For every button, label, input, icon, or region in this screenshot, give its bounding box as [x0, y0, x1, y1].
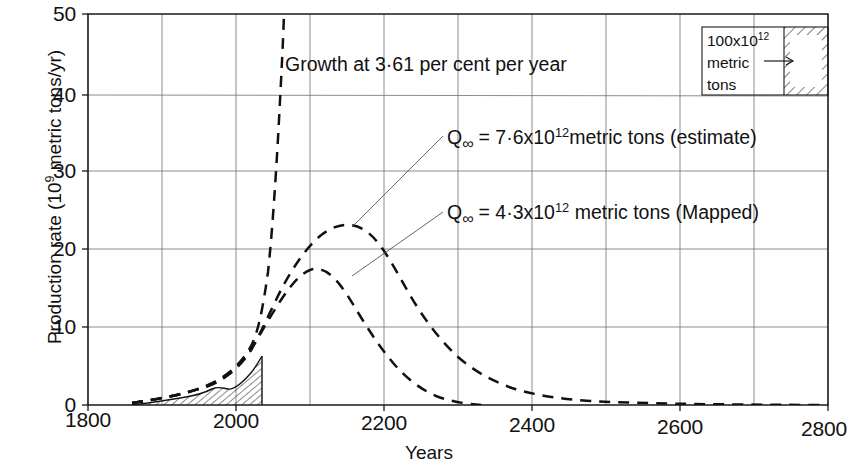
- annotation-leader-lines: [352, 136, 443, 276]
- annotation-growth-rate: Growth at 3·61 per cent per year: [285, 53, 567, 76]
- y-axis-title-suffix: metric tons/yr): [44, 50, 65, 176]
- chart-figure: 50 40 30 20 10 0 1800 2000 2200 2400 260…: [0, 0, 858, 473]
- annotation-infinity-subscript: ∞: [462, 210, 473, 227]
- x-tick-label-2200: 2200: [348, 411, 420, 435]
- annotation-units: metric tons (Mapped): [569, 201, 759, 223]
- y-axis-title: Production rate (109 metric tons/yr): [44, 32, 66, 362]
- curve-q-mapped: [132, 269, 482, 405]
- annotation-q-symbol: Q: [447, 201, 462, 223]
- x-tick-label-2000: 2000: [200, 409, 272, 433]
- annotation-q-symbol: Q: [447, 126, 462, 148]
- annotation-infinity-subscript: ∞: [462, 135, 473, 152]
- legend-label-quantity: 100x1012: [707, 32, 769, 49]
- annotation-q-value: = 4·3x10: [473, 201, 555, 223]
- y-tick-label-50: 50: [32, 2, 76, 26]
- x-tick-label-2800: 2800: [790, 417, 858, 441]
- legend-quantity-prefix: 100x10: [707, 32, 758, 49]
- annotation-q-value: = 7·6x10: [473, 126, 555, 148]
- legend-label-unit-line1: metric: [707, 54, 749, 71]
- annotation-q-mapped: Q∞ = 4·3x1012 metric tons (Mapped): [447, 201, 759, 224]
- legend-quantity-exponent: 12: [758, 31, 769, 42]
- legend-arrow-icon: [764, 57, 793, 65]
- x-axis-ticks: [88, 405, 828, 411]
- x-axis-title: Years: [0, 442, 858, 464]
- annotation-units: metric tons (estimate): [569, 126, 756, 148]
- legend-label-unit-line2: tons: [707, 76, 736, 93]
- annotation-q-estimate: Q∞ = 7·6x1012metric tons (estimate): [447, 126, 757, 149]
- annotation-exponent: 12: [555, 125, 569, 140]
- y-axis-ticks: [82, 14, 88, 405]
- y-axis-title-prefix: Production rate (10: [44, 183, 65, 345]
- x-tick-label-2600: 2600: [644, 415, 716, 439]
- shaded-region-historical: [132, 356, 262, 405]
- x-tick-label-1800: 1800: [52, 408, 124, 432]
- y-axis-title-exponent: 9: [43, 176, 57, 183]
- x-tick-label-2400: 2400: [496, 413, 568, 437]
- annotation-exponent: 12: [555, 200, 569, 215]
- curve-exponential-growth: [132, 14, 284, 403]
